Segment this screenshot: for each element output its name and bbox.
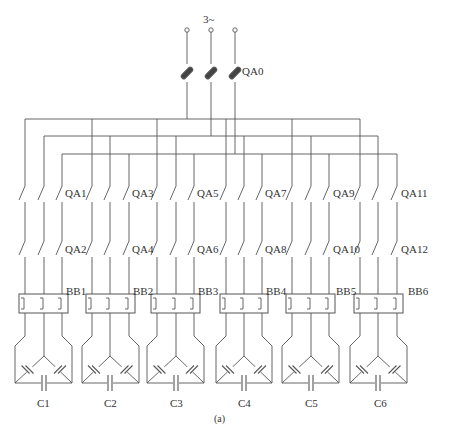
reactor-coil-icon	[172, 298, 175, 309]
reactor-coil-icon	[325, 298, 328, 309]
switch-blade-icon	[323, 186, 329, 200]
lower-switch-label-1: QA2	[65, 244, 86, 255]
reactor-coil-icon	[222, 298, 225, 309]
lower-switch-label-5: QA10	[333, 244, 360, 255]
reactor-coil-icon	[125, 298, 128, 309]
switch-blade-icon	[86, 186, 92, 200]
switch-blade-icon	[256, 241, 262, 255]
switch-blade-icon	[19, 186, 25, 200]
switch-blade-icon	[286, 186, 292, 200]
switch-blade-icon	[38, 186, 44, 200]
switch-blade-icon	[123, 241, 129, 255]
reactor-coil-icon	[153, 298, 156, 309]
capacitor-label-4: C4	[238, 398, 251, 409]
switch-blade-icon	[391, 241, 397, 255]
fuse-icon	[180, 66, 193, 79]
reactor-label-1: BB1	[66, 286, 86, 297]
reactor-coil-icon	[106, 298, 109, 309]
upper-switch-label-5: QA9	[333, 188, 354, 199]
switch-blade-icon	[86, 241, 92, 255]
reactor-label-5: BB5	[336, 286, 356, 297]
upper-switch-label-6: QA11	[401, 188, 427, 199]
switch-blade-icon	[56, 186, 62, 200]
switch-blade-icon	[372, 186, 378, 200]
capacitor-label-6: C6	[374, 398, 387, 409]
switch-blade-icon	[305, 241, 311, 255]
main-breaker-label: QA0	[242, 66, 263, 77]
switch-blade-icon	[220, 241, 226, 255]
switch-blade-icon	[19, 241, 25, 255]
reactor-coil-icon	[40, 298, 43, 309]
reactor-coil-icon	[88, 298, 91, 309]
switch-blade-icon	[286, 241, 292, 255]
upper-switch-label-2: QA3	[132, 188, 153, 199]
lower-switch-label-3: QA6	[197, 244, 218, 255]
upper-switch-label-4: QA7	[265, 188, 286, 199]
capacitor-label-3: C3	[170, 398, 183, 409]
reactor-label-4: BB4	[266, 286, 286, 297]
reactor-coil-icon	[307, 298, 310, 309]
supply-label: 3~	[203, 14, 214, 25]
reactor-coil-icon	[190, 298, 193, 309]
upper-switch-label-1: QA1	[65, 188, 86, 199]
switch-blade-icon	[238, 241, 244, 255]
reactor-coil-icon	[374, 298, 377, 309]
terminal-icon	[185, 28, 189, 32]
reactor-coil-icon	[240, 298, 243, 309]
reactor-coil-icon	[393, 298, 396, 309]
switch-blade-icon	[220, 186, 226, 200]
reactor-coil-icon	[288, 298, 291, 309]
switch-blade-icon	[188, 241, 194, 255]
switch-blade-icon	[354, 186, 360, 200]
reactor-label-2: BB2	[133, 286, 153, 297]
switch-blade-icon	[123, 186, 129, 200]
switch-blade-icon	[170, 186, 176, 200]
capacitor-label-2: C2	[104, 398, 117, 409]
reactor-coil-icon	[356, 298, 359, 309]
switch-blade-icon	[256, 186, 262, 200]
switch-blade-icon	[104, 241, 110, 255]
switch-blade-icon	[391, 186, 397, 200]
lower-switch-label-2: QA4	[132, 244, 153, 255]
fuse-icon	[228, 66, 241, 79]
switch-blade-icon	[188, 186, 194, 200]
reactor-coil-icon	[21, 298, 24, 309]
switch-blade-icon	[38, 241, 44, 255]
switch-blade-icon	[372, 241, 378, 255]
switch-blade-icon	[323, 241, 329, 255]
lower-switch-label-6: QA12	[401, 244, 428, 255]
capacitor-label-1: C1	[37, 398, 50, 409]
fuse-icon	[204, 66, 217, 79]
reactor-label-6: BB6	[408, 286, 428, 297]
capacitor-label-5: C5	[305, 398, 318, 409]
switch-blade-icon	[104, 186, 110, 200]
reactor-coil-icon	[58, 298, 61, 309]
terminal-icon	[233, 28, 237, 32]
reactor-coil-icon	[258, 298, 261, 309]
lower-switch-label-4: QA8	[265, 244, 286, 255]
figure-caption: (a)	[214, 414, 225, 424]
reactor-label-3: BB3	[198, 286, 218, 297]
capacitor-bank-schematic	[0, 0, 451, 436]
upper-switch-label-3: QA5	[197, 188, 218, 199]
switch-blade-icon	[56, 241, 62, 255]
terminal-icon	[209, 28, 213, 32]
switch-blade-icon	[170, 241, 176, 255]
switch-blade-icon	[305, 186, 311, 200]
switch-blade-icon	[238, 186, 244, 200]
